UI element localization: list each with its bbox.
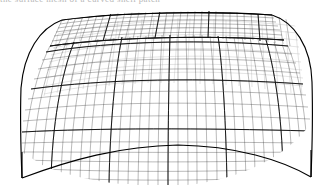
patch-boundaries xyxy=(22,35,311,185)
figure-canvas: the surface mesh of a curved shell patch xyxy=(0,0,333,196)
mesh-far-sheet xyxy=(44,18,303,96)
curved-surface-mesh xyxy=(0,0,333,196)
ridge-shadow-line xyxy=(50,37,284,46)
mesh-front-sheet xyxy=(21,35,312,185)
